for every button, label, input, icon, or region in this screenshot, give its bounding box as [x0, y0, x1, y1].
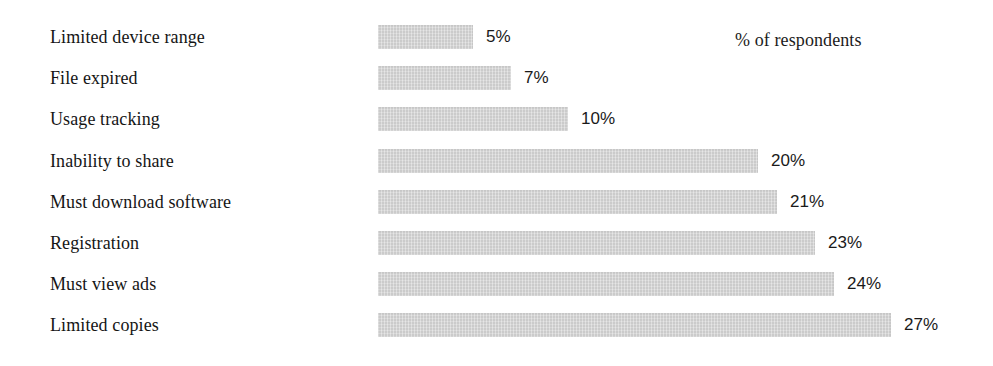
- bar-track: [378, 149, 758, 173]
- bar-row: Must view ads24%: [0, 269, 993, 299]
- bar: [378, 313, 891, 337]
- bar-value-label: 10%: [581, 104, 615, 134]
- bar-value-label: 7%: [524, 63, 549, 93]
- bar-row: Limited device range5%: [0, 22, 993, 52]
- category-label: Usage tracking: [50, 104, 160, 134]
- bar-track: [378, 231, 815, 255]
- bar: [378, 66, 511, 90]
- bar-track: [378, 272, 834, 296]
- bar: [378, 107, 568, 131]
- bar-value-label: 5%: [486, 22, 511, 52]
- bar-track: [378, 66, 511, 90]
- bar-track: [378, 190, 777, 214]
- category-label: Inability to share: [50, 146, 174, 176]
- bar: [378, 231, 815, 255]
- bar-row: Limited copies27%: [0, 310, 993, 340]
- bar: [378, 149, 758, 173]
- category-label: Limited copies: [50, 310, 159, 340]
- category-label: Must view ads: [50, 269, 156, 299]
- bar-value-label: 27%: [904, 310, 938, 340]
- bar-value-label: 21%: [790, 187, 824, 217]
- bar-value-label: 24%: [847, 269, 881, 299]
- bar-track: [378, 313, 891, 337]
- bar-row: Inability to share20%: [0, 146, 993, 176]
- bar-track: [378, 107, 568, 131]
- category-label: Must download software: [50, 187, 231, 217]
- bar-value-label: 20%: [771, 146, 805, 176]
- category-label: Limited device range: [50, 22, 205, 52]
- bar-row: Must download software21%: [0, 187, 993, 217]
- category-label: File expired: [50, 63, 138, 93]
- bar: [378, 272, 834, 296]
- bar-rows: Limited device range5%File expired7%Usag…: [0, 0, 993, 366]
- bar-row: Usage tracking10%: [0, 104, 993, 134]
- bar-row: Registration23%: [0, 228, 993, 258]
- bar: [378, 190, 777, 214]
- horizontal-bar-chart: % of respondents Limited device range5%F…: [0, 0, 993, 366]
- bar-row: File expired7%: [0, 63, 993, 93]
- bar-track: [378, 25, 473, 49]
- bar-value-label: 23%: [828, 228, 862, 258]
- bar: [378, 25, 473, 49]
- category-label: Registration: [50, 228, 139, 258]
